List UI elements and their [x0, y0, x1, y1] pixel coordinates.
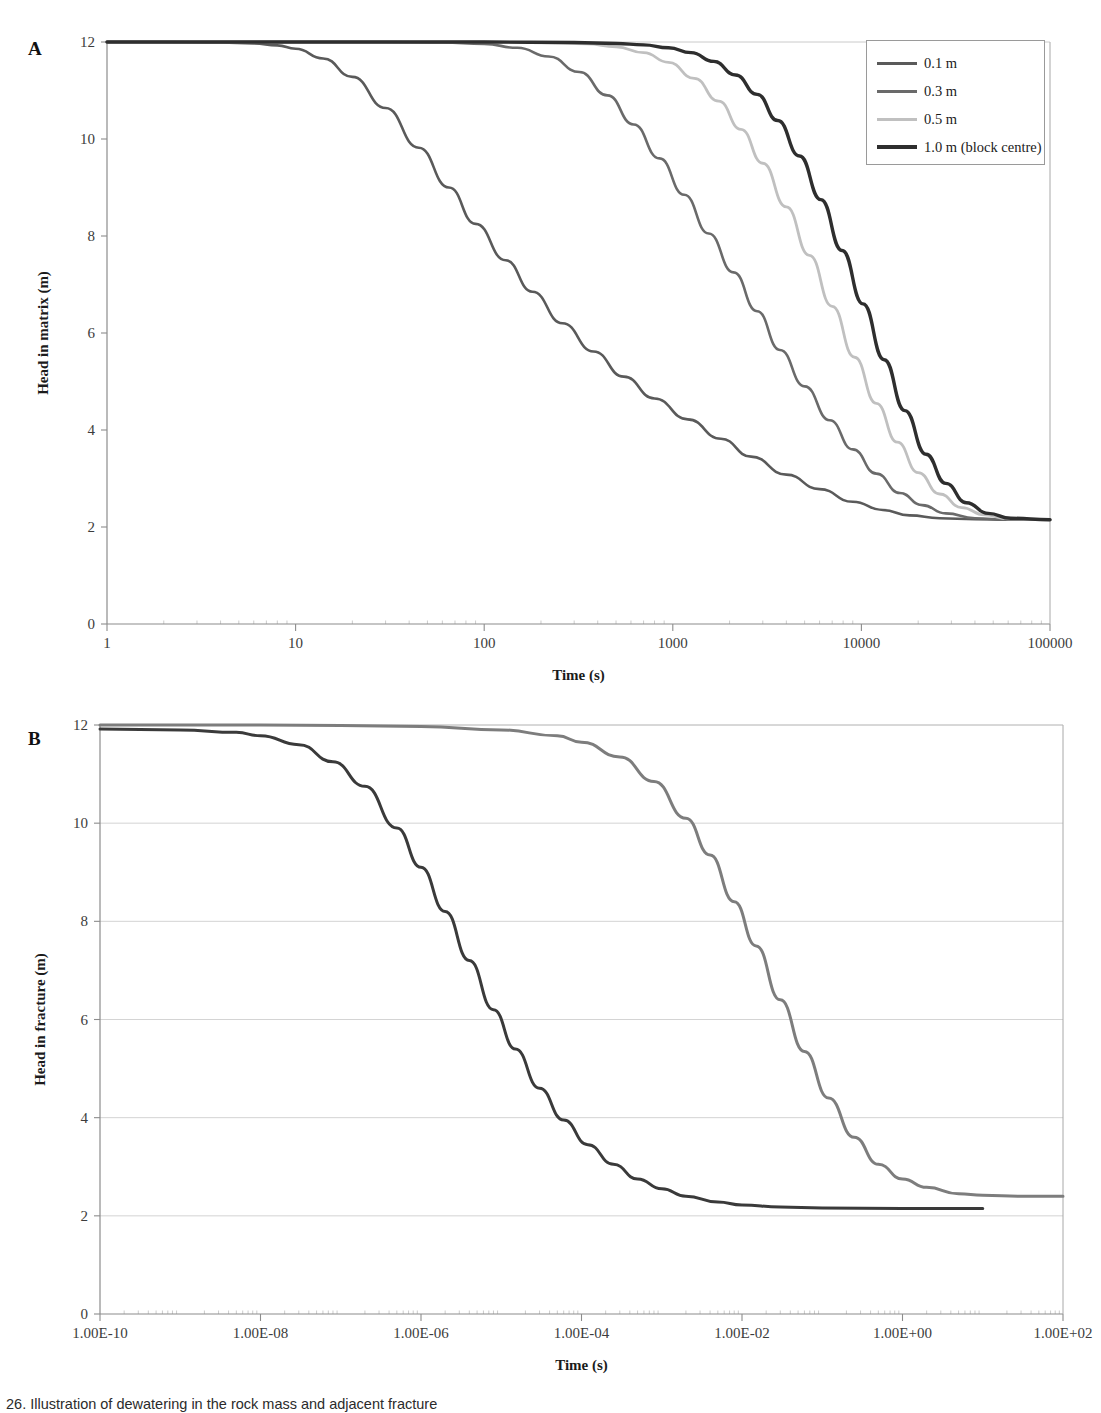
- legend-item: 0.3 m: [877, 77, 1044, 105]
- x-tick-label: 1.00E-06: [393, 1325, 449, 1341]
- y-tick-label: 2: [81, 1208, 89, 1224]
- x-tick-label: 1000: [658, 635, 688, 651]
- legend-item: 0.1 m: [877, 49, 1044, 77]
- y-tick-label: 8: [81, 913, 89, 929]
- legend-label: 0.3 m: [924, 83, 957, 100]
- x-axis-title: Time (s): [555, 1357, 608, 1374]
- y-tick-label: 6: [88, 325, 96, 341]
- y-tick-label: 10: [80, 131, 95, 147]
- figure-root: A 024681012110100100010000100000Time (s)…: [0, 0, 1101, 1413]
- x-tick-label: 1.00E+00: [873, 1325, 932, 1341]
- legend-item: 0.5 m: [877, 105, 1044, 133]
- series-line: [100, 725, 1063, 1196]
- y-axis-title: Head in fracture (m): [32, 953, 49, 1086]
- x-tick-label: 10000: [843, 635, 881, 651]
- chart-panel-a: A 024681012110100100010000100000Time (s)…: [0, 0, 1101, 700]
- y-tick-label: 0: [81, 1306, 89, 1322]
- legend-swatch-line: [877, 118, 917, 121]
- legend-panel-a: 0.1 m0.3 m0.5 m1.0 m (block centre): [866, 40, 1045, 165]
- legend-swatch-line: [877, 145, 917, 149]
- y-tick-label: 12: [73, 717, 88, 733]
- legend-swatch-line: [877, 62, 917, 65]
- y-tick-label: 12: [80, 34, 95, 50]
- legend-label: 0.1 m: [924, 55, 957, 72]
- x-tick-label: 1.00E-08: [233, 1325, 288, 1341]
- y-tick-label: 8: [88, 228, 96, 244]
- x-tick-label: 1.00E+02: [1034, 1325, 1093, 1341]
- x-tick-label: 1.00E-02: [714, 1325, 769, 1341]
- x-tick-label: 1.00E-04: [554, 1325, 610, 1341]
- x-tick-label: 10: [288, 635, 303, 651]
- x-tick-label: 100: [473, 635, 496, 651]
- x-tick-label: 1: [103, 635, 111, 651]
- y-tick-label: 4: [81, 1110, 89, 1126]
- y-axis-title: Head in matrix (m): [35, 271, 52, 395]
- y-tick-label: 2: [88, 519, 96, 535]
- y-tick-label: 10: [73, 815, 88, 831]
- y-tick-label: 0: [88, 616, 96, 632]
- x-tick-label: 100000: [1028, 635, 1073, 651]
- legend-label: 0.5 m: [924, 111, 957, 128]
- legend-swatch-line: [877, 90, 917, 93]
- x-tick-label: 1.00E-10: [72, 1325, 127, 1341]
- chart-panel-b: B 0246810121.00E-101.00E-081.00E-061.00E…: [0, 700, 1101, 1400]
- legend-label: 1.0 m (block centre): [924, 139, 1042, 156]
- y-tick-label: 6: [81, 1012, 89, 1028]
- panel-b-plot: 0246810121.00E-101.00E-081.00E-061.00E-0…: [0, 700, 1101, 1400]
- x-axis-title: Time (s): [552, 667, 605, 684]
- figure-caption: 26. Illustration of dewatering in the ro…: [6, 1396, 1096, 1412]
- legend-item: 1.0 m (block centre): [877, 133, 1044, 161]
- y-tick-label: 4: [88, 422, 96, 438]
